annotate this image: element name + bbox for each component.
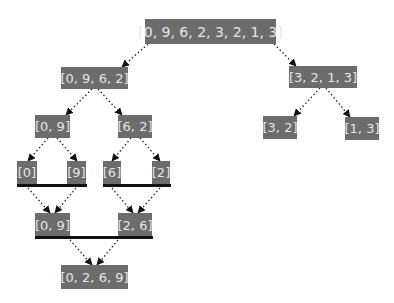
array-node: [2, 6] <box>118 213 152 237</box>
edge-n12-n13 <box>97 240 118 265</box>
edge-n10-n12 <box>138 188 160 213</box>
array-node: [3, 2] <box>263 116 297 139</box>
edge-n0-n1 <box>122 44 148 67</box>
edge-layer <box>0 0 394 303</box>
edge-n0-n2 <box>274 44 296 66</box>
edge-n1-n3 <box>66 89 92 115</box>
edge-n11-n13 <box>70 240 92 265</box>
array-node: [6] <box>103 161 121 184</box>
array-node: [0, 2, 6, 9] <box>61 265 128 289</box>
edge-n9-n12 <box>112 188 133 213</box>
edge-n1-n4 <box>98 89 122 115</box>
array-node: [3, 2, 1, 3] <box>289 66 357 88</box>
edge-n4-n9 <box>112 138 131 161</box>
edge-n2-n5 <box>294 88 320 116</box>
array-node: [0, 9] <box>35 115 70 138</box>
edge-n2-n6 <box>326 88 350 117</box>
merge-bar <box>103 184 171 187</box>
array-node: [1, 3] <box>345 117 379 140</box>
edge-n7-n11 <box>28 188 50 213</box>
merge-bar <box>17 184 87 187</box>
array-node: [9] <box>67 161 86 184</box>
array-node: [2] <box>152 161 170 184</box>
array-node: [6, 2] <box>118 115 152 138</box>
array-node: [0] <box>17 161 37 184</box>
merge-bar <box>35 236 153 239</box>
array-node: [0, 9, 6, 2, 3, 2, 1, 3] <box>145 19 276 44</box>
array-node: [0, 9, 6, 2] <box>61 67 128 89</box>
array-node: [0, 9] <box>35 213 70 237</box>
edge-n4-n10 <box>140 138 160 161</box>
edge-n8-n11 <box>55 188 76 213</box>
edge-n3-n7 <box>28 138 48 161</box>
edge-n3-n8 <box>57 138 77 161</box>
